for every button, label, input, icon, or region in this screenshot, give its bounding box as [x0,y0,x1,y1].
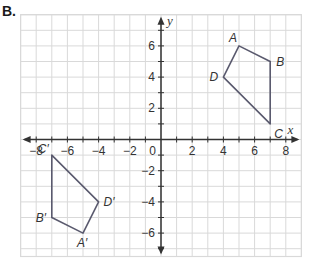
polygon-abcd [223,46,270,124]
vertex-label: B [276,55,284,69]
y-tick-label: −2 [141,164,155,178]
y-tick-label: −4 [141,195,155,209]
x-tick-label: −4 [92,144,106,158]
vertex-label: A [228,31,237,45]
y-tick-label: 4 [148,70,155,84]
y-axis-label: y [165,13,173,28]
y-tick-label: 6 [148,39,155,53]
arrow-down-icon [158,247,165,255]
x-tick-label: 8 [282,144,289,158]
arrow-left-icon [23,136,31,143]
vertex-label: B′ [36,211,47,225]
y-tick-label: −6 [141,226,155,240]
vertex-label: D′ [104,195,116,209]
y-tick-label: 2 [148,101,155,115]
vertex-label: A′ [76,236,88,250]
coordinate-plane: −8−6−4−22468642−2−4−60xyABCDA′B′C′D′ [0,0,314,266]
vertex-label: C′ [38,142,50,156]
x-tick-label: 2 [189,144,196,158]
x-axis-label: x [286,122,293,137]
polygon-abcd [52,155,99,233]
x-tick-label: −6 [61,144,75,158]
arrow-right-icon [291,136,299,143]
vertex-label: D [209,70,218,84]
x-tick-label: −2 [123,144,137,158]
x-tick-label: 6 [251,144,258,158]
origin-label: 0 [149,144,156,158]
vertex-label: C [274,127,283,141]
x-tick-label: 4 [220,144,227,158]
arrow-up-icon [158,17,165,25]
